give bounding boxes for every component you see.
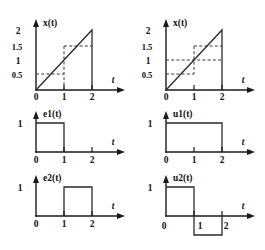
x-axis-arrow-icon — [117, 149, 125, 155]
signal-label-xt: x(t) — [173, 18, 187, 29]
x-tick-label-1: 1 — [192, 92, 197, 102]
x-tick-label-2: 2 — [90, 155, 95, 165]
signal-plots-figure: 2 1.5 1 0.5 0 1 2 x(t) t — [0, 0, 265, 250]
y-tick-label-1: 1 — [148, 119, 153, 129]
x-tick-label-0: 0 — [34, 155, 39, 165]
x-tick-label-0: 0 — [164, 92, 169, 102]
x-tick-label-0: 0 — [164, 155, 169, 165]
x-axis-arrow-icon — [247, 149, 255, 155]
panel-mid-right-u1: 1 0 1 2 u1(t) t — [130, 104, 263, 166]
y-axis-arrow-icon — [33, 19, 39, 27]
y-tick-label-1: 1 — [18, 119, 23, 129]
x-tick-label-1: 1 — [198, 221, 203, 231]
signal-curve-e1 — [36, 123, 64, 152]
signal-label-e1: e1(t) — [43, 109, 61, 120]
x-axis-arrow-icon — [117, 213, 125, 219]
y-axis-arrow-icon — [33, 111, 39, 119]
x-tick-label-2: 2 — [220, 92, 225, 102]
x-tick-label-2: 2 — [90, 92, 95, 102]
y-tick-label-0p5: 0.5 — [142, 70, 153, 80]
y-tick-label-1: 1 — [148, 183, 153, 193]
x-axis-label: t — [242, 201, 245, 211]
x-tick-label-0: 0 — [34, 92, 39, 102]
x-axis-label: t — [112, 75, 115, 85]
y-tick-label-2: 2 — [16, 26, 21, 36]
y-tick-label-1: 1 — [146, 56, 151, 66]
x-axis-arrow-icon — [117, 87, 125, 93]
signal-curve-xt — [36, 30, 92, 90]
x-tick-label-1: 1 — [192, 155, 197, 165]
signal-label-u1: u1(t) — [173, 109, 193, 120]
y-tick-label-2: 2 — [146, 26, 151, 36]
x-tick-label-1: 1 — [62, 155, 67, 165]
x-axis-arrow-icon — [247, 87, 255, 93]
y-tick-label-0p5: 0.5 — [12, 70, 23, 80]
y-axis-arrow-icon — [163, 19, 169, 27]
x-tick-label-1: 1 — [62, 92, 67, 102]
x-axis-label: t — [242, 75, 245, 85]
panel-bottom-right-u2: 1 0 1 2 u2(t) t — [130, 168, 263, 240]
y-axis-arrow-icon — [163, 111, 169, 119]
y-tick-label-1: 1 — [18, 183, 23, 193]
signal-label-u2: u2(t) — [173, 173, 193, 184]
panel-top-left-xt: 2 1.5 1 0.5 0 1 2 x(t) t — [0, 8, 132, 100]
x-tick-label-2: 2 — [220, 155, 225, 165]
y-tick-label-1: 1 — [16, 56, 21, 66]
x-axis-label: t — [112, 201, 115, 211]
y-tick-label-1p5: 1.5 — [12, 42, 23, 52]
x-axis-arrow-icon — [247, 213, 255, 219]
x-tick-label-1: 1 — [62, 219, 67, 229]
x-tick-label-0: 0 — [34, 219, 39, 229]
panel-top-right-xt: 2 1.5 1 0.5 0 1 2 x(t) t — [130, 8, 263, 100]
panel-bottom-left-e2: 1 0 1 2 e2(t) t — [0, 168, 132, 240]
signal-label-xt: x(t) — [43, 18, 57, 29]
y-axis-arrow-icon — [33, 175, 39, 183]
x-tick-label-0: 0 — [162, 221, 167, 231]
x-tick-label-2: 2 — [90, 219, 95, 229]
y-tick-label-1p5: 1.5 — [142, 42, 153, 52]
signal-label-e2: e2(t) — [43, 173, 61, 184]
y-axis-arrow-icon — [163, 175, 169, 183]
x-axis-label: t — [112, 137, 115, 147]
x-axis-label: t — [242, 137, 245, 147]
panel-mid-left-e1: 1 0 1 2 e1(t) t — [0, 104, 132, 166]
signal-curve-e2 — [64, 187, 92, 216]
x-tick-label-2: 2 — [224, 221, 229, 231]
